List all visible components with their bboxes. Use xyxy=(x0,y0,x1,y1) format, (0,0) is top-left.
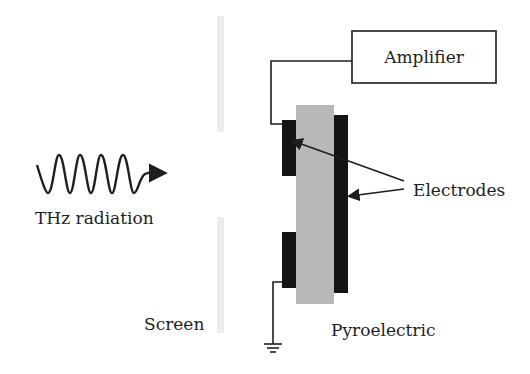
thz-wave-icon xyxy=(37,155,163,193)
screen-label: Screen xyxy=(144,314,204,334)
pyroelectric-label: Pyroelectric xyxy=(331,320,435,340)
screen-top-segment xyxy=(217,16,224,132)
electrode-pointer-back xyxy=(350,189,404,196)
electrode-front-top xyxy=(282,120,296,176)
screen-bottom-segment xyxy=(217,217,224,333)
pyroelectric-crystal xyxy=(296,105,334,304)
pyroelectric-detector-diagram: Amplifier Electrodes THz radiation Scree… xyxy=(0,0,530,374)
ground-icon xyxy=(264,344,282,352)
ground-wire xyxy=(273,282,282,344)
thz-radiation-label: THz radiation xyxy=(35,208,154,228)
electrode-back xyxy=(334,115,348,293)
electrodes-label: Electrodes xyxy=(413,180,505,200)
electrode-front-bottom xyxy=(282,232,296,288)
amplifier-label: Amplifier xyxy=(383,47,465,67)
